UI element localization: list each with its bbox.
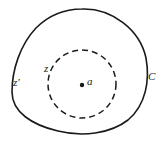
outer-contour-c [12,9,147,134]
inner-circle-label: z [43,62,49,74]
contour-diagram: a z z′ C [0,0,163,144]
outer-point-label: z′ [12,76,20,88]
center-label: a [87,75,93,87]
contour-label: C [148,70,156,82]
center-point-a [80,83,84,87]
